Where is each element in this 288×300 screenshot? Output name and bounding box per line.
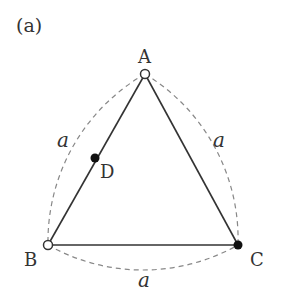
point-d-marker bbox=[91, 154, 100, 163]
side-ac bbox=[145, 74, 238, 245]
arc-bottom bbox=[48, 245, 238, 270]
point-c-label: C bbox=[250, 249, 264, 270]
point-d-label: D bbox=[100, 161, 114, 182]
reuleaux-triangle-diagram: (a) A B C D a a a bbox=[0, 0, 288, 300]
point-b-label: B bbox=[24, 249, 37, 270]
point-b-marker bbox=[44, 241, 53, 250]
side-label-left: a bbox=[57, 128, 69, 152]
side-label-right: a bbox=[213, 128, 225, 152]
triangle bbox=[48, 74, 238, 245]
dashed-arcs bbox=[48, 74, 238, 270]
side-label-bottom: a bbox=[138, 268, 150, 292]
point-c-marker bbox=[234, 241, 243, 250]
point-a-label: A bbox=[137, 46, 152, 67]
point-a-marker bbox=[141, 70, 150, 79]
panel-label: (a) bbox=[16, 14, 42, 36]
